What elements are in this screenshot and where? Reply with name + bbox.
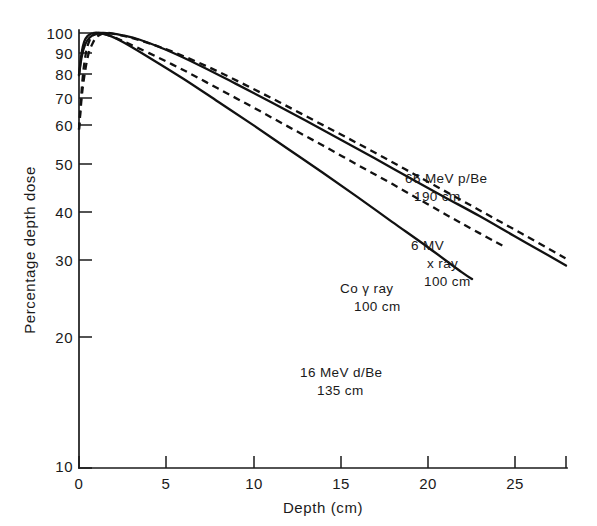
label-16mev-dbe-line2: 135 cm (317, 383, 364, 398)
label-co-gamma-line2: 100 cm (354, 299, 401, 314)
label-16mev-dbe-line1: 16 MeV d/Be (300, 365, 382, 380)
y-tick-40: 40 (55, 204, 73, 221)
y-tick-60: 60 (55, 117, 73, 134)
x-axis-title: Depth (cm) (283, 499, 363, 516)
label-6mv-xray-line1: 6 MV (411, 238, 444, 253)
y-tick-90: 90 (55, 45, 73, 62)
y-tick-20: 20 (55, 329, 73, 346)
x-tick-0: 0 (75, 475, 84, 492)
label-6mv-xray-line3: 100 cm (424, 274, 471, 289)
depth-dose-chart: 100 90 80 70 60 50 40 30 20 10 0 5 10 15 (0, 0, 597, 526)
depth-dose-figure: 100 90 80 70 60 50 40 30 20 10 0 5 10 15 (0, 0, 597, 526)
y-tick-30: 30 (55, 252, 73, 269)
y-tick-70: 70 (55, 90, 73, 107)
x-axis-ticks (79, 456, 566, 468)
x-tick-25: 25 (506, 475, 524, 492)
x-tick-10: 10 (245, 475, 263, 492)
y-axis-tick-labels: 100 90 80 70 60 50 40 30 20 10 (46, 25, 73, 475)
axis-lines (79, 30, 567, 468)
label-66mev-pbe-line2: 190 cm (414, 189, 461, 204)
y-tick-10: 10 (55, 458, 73, 475)
label-co-gamma-line1: Co γ ray (340, 281, 393, 296)
curve-co-gamma-ray-100-cm (79, 33, 505, 247)
x-tick-5: 5 (162, 475, 171, 492)
label-66mev-pbe-line1: 66 MeV p/Be (405, 171, 487, 186)
y-tick-80: 80 (55, 66, 73, 83)
data-curves (79, 33, 566, 279)
y-tick-50: 50 (55, 156, 73, 173)
x-tick-20: 20 (419, 475, 437, 492)
y-axis-title: Percentage depth dose (21, 166, 38, 334)
x-axis-tick-labels: 0 5 10 15 20 25 (75, 475, 524, 492)
y-axis-ticks (79, 33, 92, 468)
x-tick-15: 15 (332, 475, 350, 492)
label-6mv-xray-line2: x ray (427, 256, 458, 271)
y-tick-100: 100 (46, 25, 73, 42)
curve-66-mev-p-be-190-cm (79, 33, 566, 266)
